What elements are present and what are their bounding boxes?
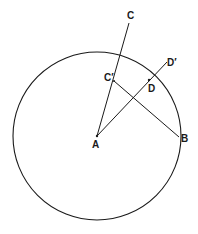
geometry-diagram: A B C C′ D D′: [0, 0, 198, 234]
point-d-marker: [148, 79, 150, 81]
label-c-prime: C′: [104, 72, 114, 83]
label-d-prime: D′: [167, 57, 177, 68]
label-a: A: [92, 139, 99, 150]
segment-c-prime-b: [114, 81, 179, 137]
point-a-marker: [96, 135, 98, 137]
label-b: B: [181, 133, 188, 144]
label-c: C: [127, 10, 134, 21]
label-d: D: [148, 83, 155, 94]
